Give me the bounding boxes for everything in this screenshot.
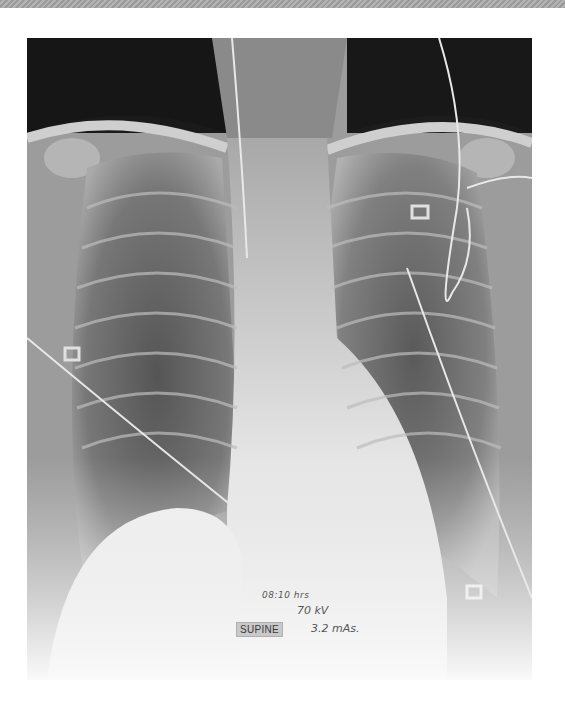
xray-drawing [27, 38, 532, 680]
annotation-exposure: 3.2 mAs. [311, 622, 359, 635]
top-border-band [0, 0, 565, 8]
annotation-kilovoltage: 70 kV [297, 604, 328, 617]
chest-xray-image [27, 38, 532, 680]
annotation-position-label: SUPINE [236, 622, 283, 637]
annotation-time: 08:10 hrs [262, 590, 309, 600]
